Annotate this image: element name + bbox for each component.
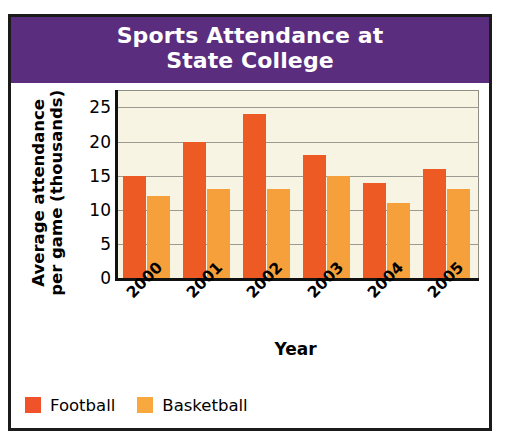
bar-football-2005 (423, 169, 446, 278)
y-axis-tick-label: 10 (89, 200, 111, 220)
chart-title-line-1: Sports Attendance at (21, 24, 479, 49)
legend-item-basketball[interactable]: Basketball (137, 396, 247, 415)
legend-label: Football (50, 396, 115, 415)
chart-title-line-2: State College (21, 49, 479, 74)
plot-area: 0510152025 (115, 90, 479, 281)
chart-title: Sports Attendance at State College (11, 17, 489, 83)
legend-swatch-icon-football (25, 397, 41, 413)
legend-swatch-icon-basketball (137, 397, 153, 413)
bar-football-2000 (123, 176, 146, 279)
plot-frame-top (118, 90, 479, 91)
plot-frame-right (478, 90, 479, 278)
bar-football-2002 (243, 114, 266, 278)
chart-legend: FootballBasketball (11, 382, 489, 428)
bar-football-2001 (183, 142, 206, 279)
y-axis-tick-label: 0 (100, 268, 111, 288)
legend-item-football[interactable]: Football (25, 396, 115, 415)
y-axis-tick-label: 20 (89, 132, 111, 152)
y-axis-title-line-2: per game (thousands) (48, 88, 66, 298)
y-axis-tick-label: 5 (100, 234, 111, 254)
y-axis-title: Average attendance per game (thousands) (30, 88, 66, 298)
x-axis-title: Year (115, 339, 476, 359)
gridline (118, 107, 479, 108)
chart-body: Average attendance per game (thousands) … (11, 83, 489, 382)
bar-football-2003 (303, 155, 326, 278)
chart-figure: Sports Attendance at State College Avera… (8, 14, 492, 431)
legend-label: Basketball (162, 396, 247, 415)
y-axis-tick-label: 25 (89, 97, 111, 117)
gridline (118, 142, 479, 143)
bar-football-2004 (363, 183, 386, 279)
y-axis-title-line-1: Average attendance (30, 88, 48, 298)
y-axis-tick-label: 15 (89, 166, 111, 186)
